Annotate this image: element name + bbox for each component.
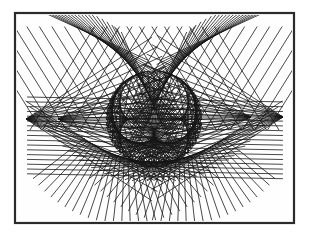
- string-art-figure: [0, 0, 311, 238]
- scanned-page: [0, 0, 311, 238]
